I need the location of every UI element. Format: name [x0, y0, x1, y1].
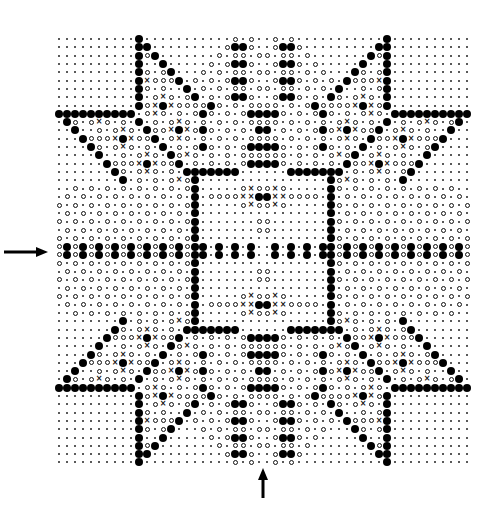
grid-cell: [207, 43, 215, 51]
grid-cell: [455, 342, 463, 350]
grid-cell: [335, 93, 343, 101]
grid-cell: [55, 276, 63, 284]
grid-cell: [167, 201, 175, 209]
grid-cell: [231, 276, 239, 284]
grid-cell: [231, 110, 239, 118]
grid-cell: [223, 425, 231, 433]
grid-cell: [407, 60, 415, 68]
grid-cell: [343, 450, 351, 458]
grid-cell: [55, 433, 63, 441]
grid-cell: [127, 259, 135, 267]
grid-cell: [239, 52, 247, 60]
grid-cell: [359, 292, 367, 300]
grid-cell: [135, 384, 143, 392]
grid-cell: [415, 101, 423, 109]
grid-cell: [359, 68, 367, 76]
grid-cell: [151, 359, 159, 367]
grid-cell: [191, 226, 199, 234]
grid-cell: [231, 60, 239, 68]
grid-cell: [159, 184, 167, 192]
grid-cell: [231, 160, 239, 168]
grid-cell: [55, 409, 63, 417]
grid-cell: [359, 135, 367, 143]
grid-cell: [439, 168, 447, 176]
grid-cell: [335, 35, 343, 43]
grid-cell: [191, 292, 199, 300]
grid-cell: [111, 309, 119, 317]
grid-cell: [191, 417, 199, 425]
grid-cell: [287, 433, 295, 441]
grid-cell: [295, 458, 303, 466]
grid-cell: [255, 384, 263, 392]
grid-cell: [231, 350, 239, 358]
grid-cell: [207, 118, 215, 126]
grid-cell: [207, 176, 215, 184]
grid-cell: [407, 326, 415, 334]
grid-cell: [95, 101, 103, 109]
grid-cell: [231, 433, 239, 441]
grid-cell: [415, 110, 423, 118]
grid-cell: [415, 77, 423, 85]
grid-cell: [255, 110, 263, 118]
grid-cell: [375, 384, 383, 392]
grid-cell: [279, 450, 287, 458]
grid-cell: [407, 218, 415, 226]
grid-cell: [167, 450, 175, 458]
grid-cell: [295, 400, 303, 408]
grid-cell: [455, 243, 463, 251]
grid-cell: [383, 301, 391, 309]
grid-cell: ×: [167, 367, 175, 375]
grid-cell: [247, 118, 255, 126]
grid-cell: [367, 118, 375, 126]
grid-cell: [95, 326, 103, 334]
grid-cell: [319, 184, 327, 192]
grid-cell: [383, 243, 391, 251]
grid-cell: [79, 359, 87, 367]
grid-cell: [111, 77, 119, 85]
grid-cell: [183, 93, 191, 101]
grid-cell: [159, 326, 167, 334]
grid-cell: [159, 276, 167, 284]
grid-cell: [63, 442, 71, 450]
grid-cell: [63, 384, 71, 392]
grid-cell: [71, 234, 79, 242]
grid-cell: [103, 292, 111, 300]
grid-cell: [271, 118, 279, 126]
grid-cell: [271, 342, 279, 350]
grid-cell: [271, 85, 279, 93]
grid-cell: [447, 234, 455, 242]
grid-cell: [63, 176, 71, 184]
grid-cell: [311, 359, 319, 367]
grid-cell: [63, 143, 71, 151]
grid-cell: [351, 400, 359, 408]
grid-cell: [63, 77, 71, 85]
grid-cell: [367, 85, 375, 93]
grid-cell: [143, 176, 151, 184]
grid-cell: [319, 101, 327, 109]
grid-cell: [375, 35, 383, 43]
grid-cell: [63, 101, 71, 109]
grid-cell: [415, 359, 423, 367]
grid-cell: [447, 60, 455, 68]
grid-cell: [319, 193, 327, 201]
grid-cell: [351, 209, 359, 217]
grid-cell: [71, 350, 79, 358]
grid-cell: [87, 218, 95, 226]
grid-cell: [359, 425, 367, 433]
grid-cell: [199, 450, 207, 458]
grid-cell: [239, 243, 247, 251]
grid-cell: [287, 309, 295, 317]
grid-cell: [463, 442, 471, 450]
grid-cell: [455, 384, 463, 392]
grid-cell: [159, 334, 167, 342]
grid-cell: [87, 143, 95, 151]
grid-cell: [79, 384, 87, 392]
grid-cell: [79, 168, 87, 176]
grid-cell: [247, 126, 255, 134]
grid-cell: [159, 375, 167, 383]
grid-cell: [335, 68, 343, 76]
grid-cell: [319, 317, 327, 325]
grid-cell: [335, 326, 343, 334]
grid-cell: [287, 384, 295, 392]
grid-cell: [55, 68, 63, 76]
